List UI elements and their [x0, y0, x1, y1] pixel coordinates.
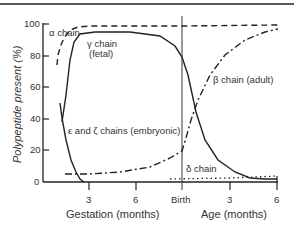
ytick-80: 80 [30, 51, 41, 61]
y-axis-label: Polypeptide present (%) [12, 46, 23, 163]
xtick-gest-3: 3 [86, 195, 91, 205]
xtick-age-6: 6 [274, 195, 279, 205]
x-axis-label-age: Age (months) [201, 209, 267, 220]
label-gamma-fetal: (fetal) [89, 49, 113, 59]
ytick-40: 40 [30, 114, 41, 124]
xtick-gest-6: 6 [133, 195, 138, 205]
xtick-age-3: 3 [227, 195, 232, 205]
y-ticks [43, 24, 49, 150]
ytick-20: 20 [30, 145, 41, 155]
ytick-60: 60 [30, 82, 41, 92]
label-delta-chain: δ chain [186, 164, 217, 174]
ytick-100: 100 [24, 19, 40, 29]
label-epsilon-zeta-chains: ε and ζ chains (embryonic) [68, 126, 180, 136]
label-beta-chain: β chain (adult) [213, 75, 273, 85]
x-axis-label-gestation: Gestation (months) [66, 209, 160, 220]
label-alpha-chain: α chain [49, 28, 80, 38]
chart-plot [0, 0, 294, 231]
ytick-0: 0 [34, 177, 39, 187]
xtick-birth: Birth [171, 195, 191, 205]
